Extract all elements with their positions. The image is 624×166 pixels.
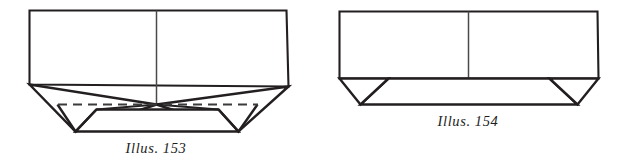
figure-illus-153	[30, 11, 289, 132]
lower-band-153	[76, 110, 239, 132]
lower-band-154	[361, 79, 578, 105]
caption-illus-153: Illus. 153	[0, 140, 312, 157]
figure-illus-154	[340, 12, 599, 105]
illustration-panel: Illus. 153 Illus. 154	[0, 0, 624, 166]
caption-illus-154: Illus. 154	[312, 113, 624, 130]
body-outline-153	[30, 11, 289, 87]
